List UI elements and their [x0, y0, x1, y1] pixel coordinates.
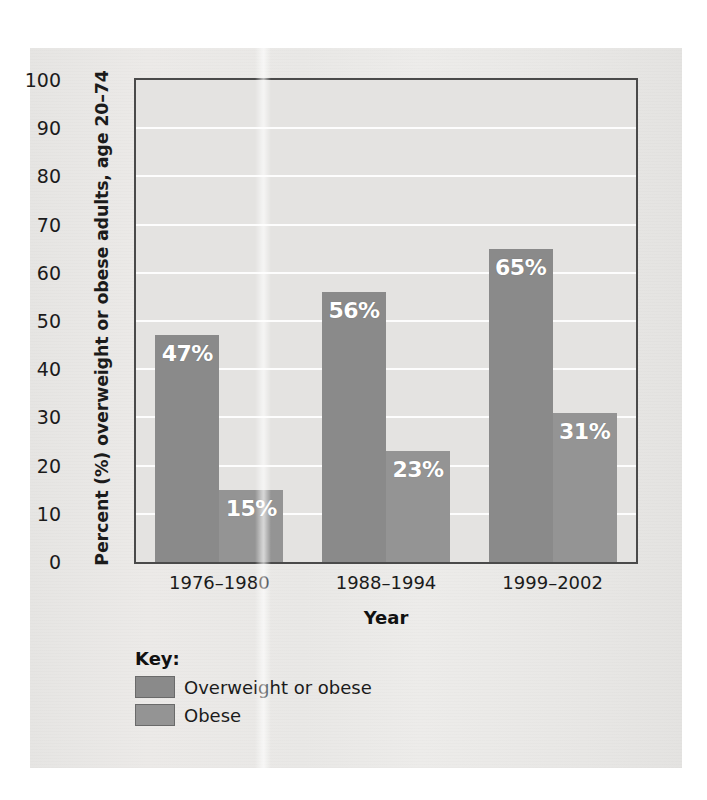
y-axis-tick-label: 60: [1, 262, 61, 284]
bar-value-label: 23%: [386, 457, 450, 482]
bar: 65%: [489, 249, 553, 562]
legend-entries: Overweight or obeseObese: [135, 676, 372, 726]
y-axis-tick-label: 80: [1, 165, 61, 187]
legend-title: Key:: [135, 648, 372, 669]
bar: 23%: [386, 451, 450, 562]
y-axis-tick-label: 30: [1, 406, 61, 428]
y-axis-tick-label: 10: [1, 503, 61, 525]
gridline: [136, 175, 636, 177]
bar-value-label: 15%: [219, 496, 283, 521]
x-axis-tick-label: 1976–1980: [139, 572, 299, 593]
legend-swatch: [135, 704, 175, 726]
y-axis-tick-label: 0: [1, 551, 61, 573]
bar-value-label: 56%: [322, 298, 386, 323]
bar: 31%: [553, 413, 617, 562]
bar: 15%: [219, 490, 283, 562]
y-axis-tick-label: 90: [1, 117, 61, 139]
bar-value-label: 31%: [553, 419, 617, 444]
x-axis-tick-label: 1999–2002: [473, 572, 633, 593]
legend-item: Obese: [135, 704, 372, 726]
legend-label: Obese: [184, 705, 241, 726]
bar: 47%: [155, 335, 219, 562]
x-axis-title: Year: [134, 607, 638, 628]
bar-value-label: 47%: [155, 341, 219, 366]
gridline: [136, 272, 636, 274]
y-axis-tick-label: 50: [1, 310, 61, 332]
x-axis-tick-label: 1988–1994: [306, 572, 466, 593]
y-axis-tick-label: 20: [1, 455, 61, 477]
legend-swatch: [135, 676, 175, 698]
bar-value-label: 65%: [489, 255, 553, 280]
y-axis-tick-label: 40: [1, 358, 61, 380]
y-axis-tick-label: 70: [1, 214, 61, 236]
chart-page: Percent (%) overweight or obese adults, …: [0, 0, 707, 800]
y-axis-tick-label: 100: [1, 69, 61, 91]
gridline: [136, 127, 636, 129]
plot-area: 47%15%56%23%65%31%: [134, 78, 638, 564]
gridline: [136, 320, 636, 322]
legend: Key: Overweight or obeseObese: [135, 648, 372, 732]
bar: 56%: [322, 292, 386, 562]
gridline: [136, 224, 636, 226]
legend-label: Overweight or obese: [184, 677, 372, 698]
legend-item: Overweight or obese: [135, 676, 372, 698]
